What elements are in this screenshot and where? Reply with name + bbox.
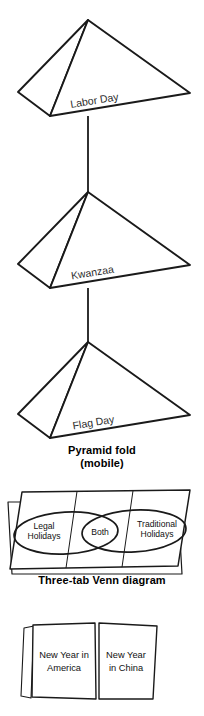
venn-label-traditional-line1: Traditional — [137, 519, 177, 529]
venn-caption: Three-tab Venn diagram — [0, 574, 204, 587]
pyramid-fold-caption-line2: (mobile) — [0, 457, 204, 470]
foldables-diagram-page: Labor Day Kwanzaa Flag Day Pyramid fold … — [0, 0, 204, 716]
venn-label-traditional-line2: Holidays — [141, 529, 174, 539]
pyramid-3: Flag Day — [18, 342, 190, 438]
pyramid-fold-figure: Labor Day Kwanzaa Flag Day — [0, 0, 204, 470]
two-panel-left-label-line1: New Year in — [39, 650, 89, 660]
two-panel-fold-figure: New Year in America New Year in China — [0, 620, 204, 716]
pyramid-fold-caption-line1: Pyramid fold — [0, 444, 204, 457]
pyramid-3-front-face — [50, 342, 190, 438]
pyramid-2: Kwanzaa — [18, 192, 190, 288]
pyramid-1: Labor Day — [18, 20, 190, 116]
two-panel-left-panel — [32, 623, 96, 699]
venn-label-both: Both — [91, 527, 109, 537]
two-panel-left-label-line2: America — [47, 663, 82, 673]
venn-label-legal-line2: Holidays — [28, 531, 61, 541]
two-panel-right-label-line1: New Year — [106, 650, 146, 660]
pyramid-fold-caption: Pyramid fold (mobile) — [0, 444, 204, 470]
venn-caption-line1: Three-tab Venn diagram — [0, 574, 204, 587]
venn-label-legal-line1: Legal — [33, 521, 54, 531]
two-panel-right-panel — [99, 623, 157, 699]
two-panel-right-label-line2: in China — [109, 663, 144, 673]
